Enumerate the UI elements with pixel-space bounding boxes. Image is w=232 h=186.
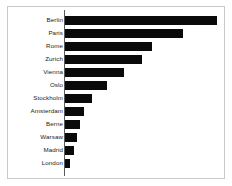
bar-row: Rome (8, 40, 226, 52)
plot-area: BerlinParisRomeZurichViennaOsloStockholm… (8, 7, 226, 180)
bar (65, 133, 77, 142)
bar (65, 107, 84, 116)
bar-row: Berlin (8, 14, 226, 26)
bar (65, 81, 107, 90)
bar (65, 94, 92, 103)
bar-category-label: Amsterdam (11, 105, 63, 117)
bar-row: Paris (8, 27, 226, 39)
bar (65, 55, 142, 64)
bar-category-label: Warsaw (11, 131, 63, 143)
bar-row: Vienna (8, 66, 226, 78)
bar-category-label: Vienna (11, 66, 63, 78)
bar-row: Oslo (8, 79, 226, 91)
bar (65, 146, 74, 155)
bar-category-label: Stockholm (11, 92, 63, 104)
bar-category-label: Paris (11, 27, 63, 39)
bar-category-label: Rome (11, 40, 63, 52)
bar (65, 42, 152, 51)
bar-category-label: Berne (11, 118, 63, 130)
bar-row: Berne (8, 118, 226, 130)
bar (65, 159, 70, 168)
bar-category-label: Madrid (11, 144, 63, 156)
bar (65, 16, 217, 25)
bar-category-label: Zurich (11, 53, 63, 65)
bar (65, 120, 80, 129)
bar-category-label: Oslo (11, 79, 63, 91)
bar-row: Zurich (8, 53, 226, 65)
bar-row: Amsterdam (8, 105, 226, 117)
bar-row: Stockholm (8, 92, 226, 104)
bar-row: Madrid (8, 144, 226, 156)
bar-category-label: London (11, 157, 63, 169)
bar-row: Warsaw (8, 131, 226, 143)
bar (65, 68, 124, 77)
bar-category-label: Berlin (11, 14, 63, 26)
bar-row: London (8, 157, 226, 169)
chart-frame: BerlinParisRomeZurichViennaOsloStockholm… (7, 6, 225, 179)
bar (65, 29, 183, 38)
